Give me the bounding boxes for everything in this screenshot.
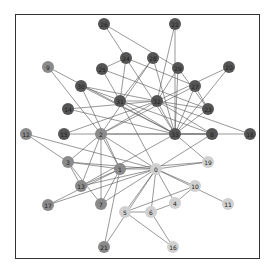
edge-2-3 (68, 134, 101, 162)
node-24: 24 (120, 52, 132, 64)
node-label: 25 (98, 66, 106, 73)
node-label: 2 (99, 131, 103, 138)
node-label: 23 (204, 106, 212, 113)
edge-22-32 (157, 24, 175, 101)
edge-26-33 (104, 24, 175, 134)
node-label: 5 (123, 209, 127, 216)
node-2: 2 (95, 128, 107, 140)
node-label: 32 (153, 98, 161, 105)
edge-5-10 (125, 186, 195, 212)
node-12: 12 (20, 128, 32, 140)
edge-2-13 (81, 134, 101, 186)
node-label: 21 (100, 244, 108, 251)
node-27: 27 (189, 80, 201, 92)
node-33: 33 (169, 128, 181, 140)
edge-26-29 (104, 24, 178, 68)
node-18: 18 (244, 128, 256, 140)
edge-6-16 (151, 212, 173, 247)
node-20: 20 (223, 61, 235, 73)
node-label: 31 (116, 98, 124, 105)
node-1: 1 (114, 163, 126, 175)
node-16: 16 (167, 241, 179, 253)
edge-14-33 (68, 109, 175, 134)
edge-0-2 (101, 134, 156, 169)
node-32: 32 (151, 95, 163, 107)
node-9: 9 (42, 61, 54, 73)
edge-19-33 (175, 134, 208, 162)
node-22: 22 (169, 18, 181, 30)
node-label: 20 (225, 64, 233, 71)
node-label: 16 (169, 244, 177, 251)
node-label: 12 (22, 131, 30, 138)
node-23: 23 (202, 103, 214, 115)
node-25: 25 (96, 63, 108, 75)
node-label: 10 (191, 183, 199, 190)
node-label: 15 (60, 131, 68, 138)
node-4: 4 (169, 197, 181, 209)
node-17: 17 (42, 199, 54, 211)
node-label: 4 (173, 200, 177, 207)
edge-2-32 (101, 101, 157, 134)
node-30: 30 (75, 80, 87, 92)
node-10: 10 (189, 180, 201, 192)
node-3: 3 (62, 156, 74, 168)
node-31: 31 (114, 95, 126, 107)
node-label: 6 (149, 209, 153, 216)
node-7: 7 (95, 198, 107, 210)
node-label: 13 (77, 183, 85, 190)
node-label: 3 (66, 159, 70, 166)
node-label: 8 (210, 131, 214, 138)
node-label: 18 (246, 131, 254, 138)
node-28: 28 (147, 52, 159, 64)
node-label: 22 (171, 21, 179, 28)
node-label: 0 (154, 166, 158, 173)
node-label: 1 (118, 166, 122, 173)
node-label: 33 (171, 131, 179, 138)
node-26: 26 (98, 18, 110, 30)
node-8: 8 (206, 128, 218, 140)
node-label: 29 (174, 65, 182, 72)
node-6: 6 (145, 206, 157, 218)
node-13: 13 (75, 180, 87, 192)
node-label: 30 (77, 83, 85, 90)
node-label: 19 (204, 159, 212, 166)
node-label: 9 (46, 64, 50, 71)
node-19: 19 (202, 156, 214, 168)
node-label: 14 (64, 106, 72, 113)
node-label: 26 (100, 21, 108, 28)
node-5: 5 (119, 206, 131, 218)
node-label: 7 (99, 201, 103, 208)
node-14: 14 (62, 103, 74, 115)
node-0: 0 (150, 163, 162, 175)
node-label: 28 (149, 55, 157, 62)
node-label: 27 (191, 83, 199, 90)
node-label: 11 (224, 201, 232, 208)
node-label: 24 (122, 55, 130, 62)
node-15: 15 (58, 128, 70, 140)
node-29: 29 (172, 62, 184, 74)
network-graph: 0123456789101112131415161718192021222324… (0, 0, 275, 273)
node-label: 17 (44, 202, 52, 209)
node-11: 11 (222, 198, 234, 210)
node-21: 21 (98, 241, 110, 253)
